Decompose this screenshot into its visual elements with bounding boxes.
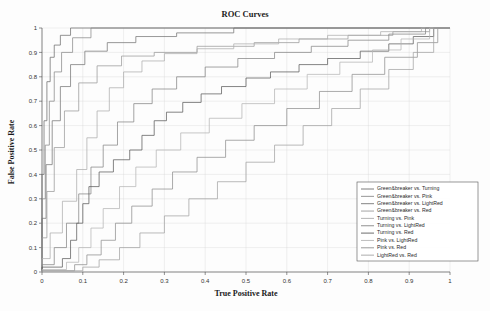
legend-item-label: Pink vs. LightRed [377, 237, 417, 243]
y-tick-label: 0.8 [29, 74, 38, 80]
y-tick-label: 0.1 [29, 245, 38, 251]
y-tick-label: 0.9 [29, 50, 38, 56]
y-tick-label: 0.6 [29, 123, 38, 129]
legend-item-label: LightRed vs. Red [377, 252, 417, 258]
legend-item-label: Turning vs. Red [377, 229, 414, 235]
x-tick-label: 0.8 [364, 278, 373, 284]
y-tick-label: 0.7 [29, 98, 38, 104]
legend-item-label: Pink vs. Red [377, 244, 406, 250]
chart-title: ROC Curves [222, 9, 270, 19]
x-tick-label: 0.7 [323, 278, 332, 284]
y-tick-label: 0.2 [29, 220, 38, 226]
legend-item-label: Turning vs. Pink [377, 215, 414, 221]
legend-item-label: Turning vs. LightRed [377, 222, 425, 228]
x-tick-label: 0.3 [160, 278, 169, 284]
chart-canvas: ROC Curves 00.10.20.30.40.50.60.70.80.91… [0, 0, 490, 311]
legend-item-label: Green&breaker vs. Turning [377, 185, 439, 191]
legend-item-label: Green&breaker vs. Red [377, 207, 432, 213]
x-tick-label: 0.9 [405, 278, 414, 284]
x-tick-label: 0.2 [119, 278, 128, 284]
x-tick-label: 0.4 [201, 278, 210, 284]
x-tick-label: 0.6 [283, 278, 292, 284]
x-tick-label: 0.1 [79, 278, 88, 284]
x-tick-label: 0.5 [242, 278, 251, 284]
roc-chart-figure: ROC Curves 00.10.20.30.40.50.60.70.80.91… [0, 0, 490, 311]
legend-item-label: Green&breaker vs. LightRed [377, 200, 443, 206]
x-axis-title: True Positive Rate [215, 289, 278, 298]
y-tick-label: 0.4 [29, 172, 38, 178]
y-axis-title: False Positive Rate [7, 119, 16, 184]
y-tick-label: 0.3 [29, 196, 38, 202]
y-tick-label: 0.5 [29, 147, 38, 153]
legend-item-label: Green&breaker vs. Pink [377, 193, 432, 199]
chart-legend: Green&breaker vs. TurningGreen&breaker v… [357, 182, 478, 261]
